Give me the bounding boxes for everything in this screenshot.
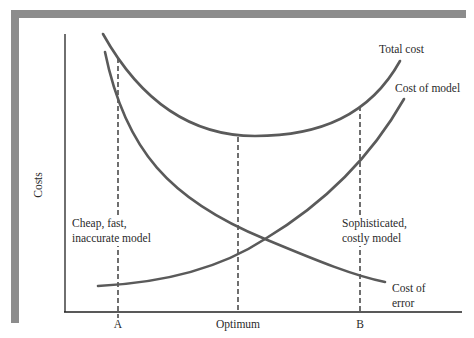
curve-cost-of-error (105, 52, 385, 282)
cost-tradeoff-diagram: Total cost Cost of model Cost of error C… (0, 0, 474, 338)
annotation-cheap-line2: inaccurate model (72, 232, 151, 244)
frame-top-bar (11, 10, 466, 18)
frame-left-bar (11, 10, 19, 323)
label-cost-of-model: Cost of model (395, 82, 460, 94)
curve-cost-of-model (98, 99, 404, 286)
annotation-sophisticated-line2: costly model (342, 232, 401, 245)
annotation-sophisticated-line1: Sophisticated, (342, 217, 407, 230)
label-total-cost: Total cost (379, 43, 425, 55)
x-tick-a: A (114, 318, 123, 330)
curve-total-cost (103, 34, 400, 136)
label-cost-of-error-line1: Cost of (392, 282, 426, 294)
annotation-cheap-line1: Cheap, fast, (72, 217, 127, 230)
label-cost-of-error-line2: error (392, 297, 415, 309)
y-axis-label: Costs (32, 172, 44, 198)
x-tick-optimum: Optimum (216, 318, 260, 331)
x-tick-b: B (356, 318, 364, 330)
